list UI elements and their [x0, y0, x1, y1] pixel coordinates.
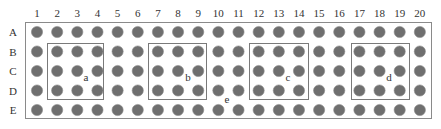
- well-dot: [394, 26, 405, 37]
- label-e: e: [225, 93, 230, 105]
- well-dot: [253, 65, 264, 76]
- well-dot: [92, 46, 103, 57]
- row-label: D: [9, 85, 17, 97]
- well-dot: [31, 46, 42, 57]
- column-label: 5: [115, 7, 121, 19]
- column-label: 11: [233, 7, 244, 19]
- column-label: 10: [213, 7, 225, 19]
- row-label: B: [9, 46, 16, 58]
- well-dot: [152, 46, 163, 57]
- well-dot: [394, 85, 405, 96]
- well-dot: [273, 26, 284, 37]
- well-dot: [273, 46, 284, 57]
- well-dot: [374, 65, 385, 76]
- well-dot: [92, 26, 103, 37]
- well-dot: [253, 46, 264, 57]
- well-dot: [374, 104, 385, 115]
- well-dot: [293, 65, 304, 76]
- well-dot: [31, 65, 42, 76]
- box-label-d: d: [386, 71, 392, 83]
- well-dot: [273, 65, 284, 76]
- well-dot: [172, 104, 183, 115]
- box-label-b: b: [185, 71, 191, 83]
- column-label: 16: [334, 7, 346, 19]
- well-dot: [193, 26, 204, 37]
- column-label: 8: [175, 7, 181, 19]
- well-dot: [233, 65, 244, 76]
- well-dot: [253, 104, 264, 115]
- well-dot: [394, 104, 405, 115]
- well-dot: [253, 26, 264, 37]
- well-dot: [193, 85, 204, 96]
- column-label: 12: [253, 7, 264, 19]
- well-dot: [354, 26, 365, 37]
- well-dot: [414, 46, 425, 57]
- well-dot: [132, 26, 143, 37]
- well-dot: [273, 104, 284, 115]
- well-dot: [414, 26, 425, 37]
- well-dot: [414, 104, 425, 115]
- well-dot: [293, 26, 304, 37]
- well-dot: [112, 85, 123, 96]
- well-dot: [31, 26, 42, 37]
- well-dot: [213, 85, 224, 96]
- well-dot: [52, 65, 63, 76]
- well-dot: [72, 104, 83, 115]
- well-dot: [334, 65, 345, 76]
- well-dot: [314, 26, 325, 37]
- row-label: A: [9, 26, 17, 38]
- well-dot: [334, 85, 345, 96]
- well-dot: [132, 104, 143, 115]
- column-label: 13: [273, 7, 285, 19]
- column-label: 1: [34, 7, 40, 19]
- extra-labels: e: [225, 93, 230, 105]
- well-dot: [314, 85, 325, 96]
- well-dot: [293, 85, 304, 96]
- well-dot: [233, 85, 244, 96]
- well-dot: [334, 26, 345, 37]
- well-dot: [193, 46, 204, 57]
- well-dot: [314, 46, 325, 57]
- well-dot: [132, 65, 143, 76]
- well-dot: [112, 104, 123, 115]
- well-dot: [72, 85, 83, 96]
- well-dot: [172, 85, 183, 96]
- well-dot: [314, 65, 325, 76]
- well-dot: [213, 46, 224, 57]
- well-dot: [112, 65, 123, 76]
- column-label: 3: [75, 7, 81, 19]
- well-dot: [354, 85, 365, 96]
- well-dot: [92, 85, 103, 96]
- well-dot: [334, 104, 345, 115]
- well-dot: [72, 26, 83, 37]
- well-dot: [152, 26, 163, 37]
- column-label: 4: [95, 7, 101, 19]
- well-dot: [132, 85, 143, 96]
- well-dot: [213, 26, 224, 37]
- well-dot: [92, 65, 103, 76]
- well-dot: [233, 104, 244, 115]
- column-label: 9: [195, 7, 201, 19]
- row-labels: ABCDE: [9, 26, 17, 116]
- column-label: 17: [354, 7, 366, 19]
- well-grid-diagram: 1234567891011121314151617181920 ABCDE ab…: [0, 0, 441, 129]
- well-dot: [273, 85, 284, 96]
- well-dot: [193, 104, 204, 115]
- column-label: 15: [314, 7, 326, 19]
- column-labels: 1234567891011121314151617181920: [34, 7, 426, 19]
- well-dot: [52, 26, 63, 37]
- well-dot: [172, 46, 183, 57]
- well-dot: [334, 46, 345, 57]
- well-dot: [374, 85, 385, 96]
- well-dot: [233, 46, 244, 57]
- well-dot: [213, 65, 224, 76]
- well-dot: [193, 65, 204, 76]
- column-label: 18: [374, 7, 386, 19]
- well-dot: [354, 65, 365, 76]
- well-dot: [253, 85, 264, 96]
- row-label: E: [10, 104, 17, 116]
- well-dot: [293, 46, 304, 57]
- column-label: 6: [135, 7, 141, 19]
- well-dot: [72, 46, 83, 57]
- well-dot: [374, 26, 385, 37]
